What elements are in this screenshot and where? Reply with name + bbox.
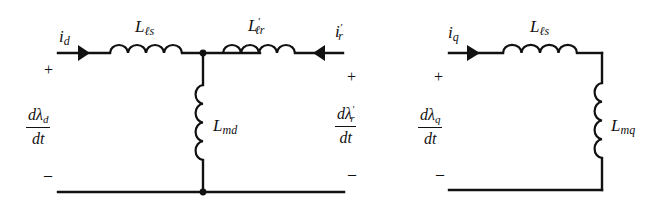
q-axis-circuit [449,45,602,190]
inductor-lmq [595,83,602,158]
d-axis-circuit [58,45,344,195]
current-arrow-ir-icon [313,45,325,61]
label-lmq: Lmq [611,117,635,136]
label-ir: i′r [335,22,343,42]
current-arrow-id-icon [78,45,90,61]
label-lls-d: Lℓs [135,18,154,37]
label-llr-d: L′ℓr [248,16,265,36]
label-id: id [59,28,70,47]
q-plus-sign: + [434,69,443,85]
voltage-dlambda-d-dt: dλd dt [26,107,50,147]
minus-sign-right: – [348,166,356,182]
circuit-drawing [0,0,666,206]
inductor-lls-q [503,45,577,53]
label-iq: iq [448,24,459,43]
q-minus-sign: – [436,166,444,182]
voltage-dlambda-r-dt: dλ′r dt [335,105,356,146]
junction-bottom [200,189,207,196]
inductor-lmd [196,85,203,160]
voltage-dlambda-q-dt: dλq dt [418,107,442,147]
inductor-lls-d [110,45,182,53]
current-arrow-iq-icon [467,45,480,61]
plus-sign-right: + [347,69,356,85]
plus-sign-left: + [44,62,53,78]
label-lmd: Lmd [213,117,237,136]
label-lls-q: Lℓs [530,18,549,37]
minus-sign-left: – [44,167,52,183]
